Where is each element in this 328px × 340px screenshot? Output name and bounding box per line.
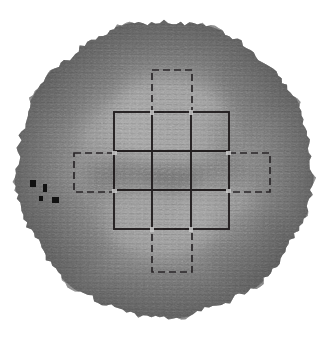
marker-2	[43, 184, 47, 192]
grid-junction-break-3	[150, 227, 154, 232]
grid-junction-break-6	[112, 189, 117, 193]
grid-junction-break-2	[189, 110, 193, 115]
grid-junction-break-8	[226, 189, 231, 193]
grid-junction-break-7	[226, 151, 231, 155]
marker-3	[39, 196, 43, 201]
circular-survey-scan	[0, 0, 328, 340]
grid-junction-break-1	[150, 110, 154, 115]
survey-figure	[0, 0, 328, 340]
marker-1	[30, 180, 36, 187]
grid-junction-break-4	[189, 227, 193, 232]
grid-junction-break-5	[112, 151, 117, 155]
marker-4	[52, 197, 59, 203]
scan-stage	[0, 0, 328, 340]
